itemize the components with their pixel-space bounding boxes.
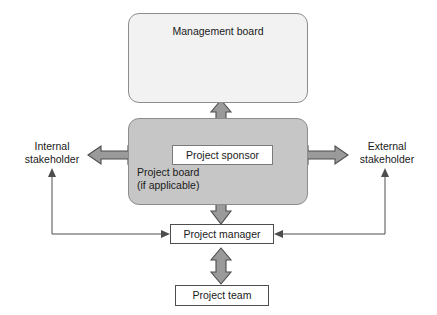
project-team-label: Project team (193, 289, 252, 302)
node-project-manager: Project manager (170, 224, 274, 244)
project-sponsor-label: Project sponsor (186, 149, 259, 162)
node-internal-stakeholder: Internal stakeholder (16, 140, 88, 166)
node-project-team: Project team (175, 285, 269, 306)
node-management-board: Management board (128, 13, 308, 103)
project-manager-label: Project manager (183, 228, 260, 241)
internal-stakeholder-label-line2: stakeholder (16, 153, 88, 166)
project-board-label-line2: (if applicable) (137, 179, 241, 192)
node-external-stakeholder: External stakeholder (350, 140, 424, 166)
management-board-label: Management board (172, 25, 263, 38)
external-stakeholder-label-line1: External (350, 140, 424, 153)
diagram-canvas: Management board Project board (if appli… (0, 0, 437, 315)
project-board-label-line1: Project board (137, 166, 241, 179)
node-project-sponsor: Project sponsor (172, 145, 273, 165)
project-board-label: Project board (if applicable) (137, 166, 241, 192)
external-stakeholder-label-line2: stakeholder (350, 153, 424, 166)
arrow-project-manager-project-team (211, 248, 231, 284)
internal-stakeholder-label-line1: Internal (16, 140, 88, 153)
